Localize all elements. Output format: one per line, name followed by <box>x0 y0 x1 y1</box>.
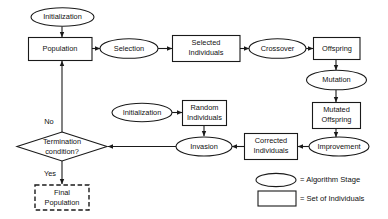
crossover-label: Crossover <box>261 44 295 53</box>
node-selection[interactable]: Selection <box>100 39 158 59</box>
node-population[interactable]: Population <box>29 38 93 61</box>
node-mutation[interactable]: Mutation <box>307 70 367 90</box>
node-random-individuals[interactable]: Random Individuals <box>183 101 227 126</box>
edge-label-no: No <box>44 117 53 126</box>
legend-set-of-individuals-label: = Set of Individuals <box>300 194 365 203</box>
edge-label-yes: Yes <box>44 169 56 178</box>
legend-algorithm-stage-label: = Algorithm Stage <box>300 175 360 184</box>
offspring-label: Offspring <box>322 44 352 53</box>
flowchart-svg: Initialization Population Selection Sele… <box>0 0 388 219</box>
node-offspring[interactable]: Offspring <box>314 38 361 60</box>
population-label: Population <box>43 44 78 53</box>
flowchart-canvas: Initialization Population Selection Sele… <box>0 0 388 219</box>
legend-item-algorithm-stage: = Algorithm Stage <box>256 173 360 186</box>
selection-label: Selection <box>114 44 144 53</box>
node-final-population[interactable]: Final Population <box>35 185 89 210</box>
node-initialization-top[interactable]: Initialization <box>31 8 94 27</box>
improvement-label: Improvement <box>317 142 360 151</box>
invasion-label: Invasion <box>190 142 218 151</box>
mutated-offspring-label-line1: Mutated <box>323 105 350 114</box>
random-individuals-label-line2: Individuals <box>187 113 222 122</box>
node-corrected-individuals[interactable]: Corrected Individuals <box>245 134 298 160</box>
node-termination-condition[interactable]: Termination condition? <box>17 132 107 161</box>
corrected-individuals-label-line2: Individuals <box>254 146 289 155</box>
selected-individuals-label-line1: Selected <box>192 38 221 47</box>
final-population-label-line1: Final <box>54 188 70 197</box>
corrected-individuals-label-line1: Corrected <box>255 136 287 145</box>
initialization-mid-label: Initialization <box>123 108 162 117</box>
node-improvement[interactable]: Improvement <box>309 137 369 156</box>
initialization-top-label: Initialization <box>43 12 82 21</box>
node-mutated-offspring[interactable]: Mutated Offspring <box>313 103 361 129</box>
termination-condition-label-line1: Termination <box>43 137 81 146</box>
random-individuals-label-line1: Random <box>191 103 219 112</box>
mutation-label: Mutation <box>322 75 350 84</box>
mutated-offspring-label-line2: Offspring <box>322 115 352 124</box>
legend-item-set-of-individuals: = Set of Individuals <box>258 191 365 206</box>
legend: = Algorithm Stage = Set of Individuals <box>256 173 365 206</box>
selected-individuals-label-line2: Individuals <box>189 48 224 57</box>
termination-condition-label-line2: condition? <box>45 147 79 156</box>
legend-ellipse-icon <box>256 173 296 186</box>
node-invasion[interactable]: Invasion <box>176 137 232 156</box>
node-initialization-mid[interactable]: Initialization <box>112 103 172 122</box>
legend-rect-icon <box>258 191 296 206</box>
final-population-label-line2: Population <box>45 198 80 207</box>
node-crossover[interactable]: Crossover <box>249 39 306 59</box>
node-selected-individuals[interactable]: Selected Individuals <box>173 36 241 62</box>
